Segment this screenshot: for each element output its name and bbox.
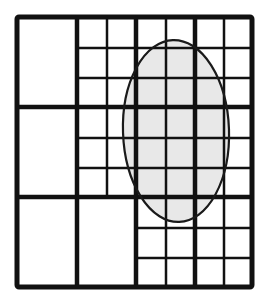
grid-diagram xyxy=(0,0,267,299)
